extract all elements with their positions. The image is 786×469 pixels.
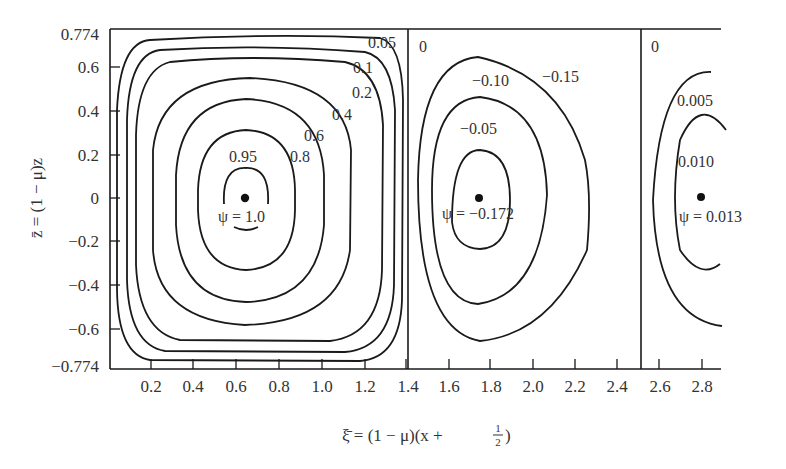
- x-axis-title-frac-den: 2: [495, 436, 501, 448]
- y-tick-label: −0.774: [51, 357, 99, 376]
- x-axis-title-frac-num: 1: [495, 422, 501, 434]
- contour-label: −0.15: [542, 68, 579, 85]
- y-tick-label: 0.4: [78, 102, 100, 121]
- x-tick-labels: 0.2 0.4 0.6 0.8 1.0 1.2 1.4 1.6 1.8 2.0 …: [140, 377, 712, 396]
- y-tick-label: 0: [91, 189, 100, 208]
- y-axis-title: z̄ = (1 − μ)z: [27, 157, 46, 238]
- contour-0.4: [153, 78, 351, 325]
- x-tick-label: 1.2: [354, 377, 375, 396]
- x-tick-label: 2.6: [649, 377, 670, 396]
- x-tick-label: 0.6: [225, 377, 246, 396]
- contour-label: 0.05: [368, 34, 396, 51]
- contour-label: 0.005: [677, 92, 713, 109]
- cell-3-contours: [653, 72, 726, 326]
- contour-label: 0.1: [353, 59, 373, 76]
- contour-label: −0.10: [472, 72, 509, 89]
- center-value-label: ψ = 0.013: [679, 208, 742, 226]
- y-tick-label: −0.2: [68, 232, 99, 251]
- contour--0.15: [418, 57, 589, 341]
- x-tick-label: 1.8: [480, 377, 501, 396]
- x-axis-title: ξ̄ = (1 − μ)(x + 1 2 ): [342, 422, 511, 448]
- y-tick-labels: 0.774 0.6 0.4 0.2 0 −0.2 −0.4 −0.6 −0.77…: [51, 25, 99, 376]
- contour-0.010: [675, 115, 726, 270]
- x-tick-label: 0.2: [140, 377, 161, 396]
- contour-label: 0.4: [332, 106, 352, 123]
- cell-2-labels: 0 −0.15 −0.10 −0.05 ψ = −0.172: [419, 38, 579, 223]
- cell-1-center-point: [241, 194, 249, 202]
- x-tick-label: 2.8: [691, 377, 712, 396]
- contour-label: −0.05: [460, 120, 497, 137]
- x-axis-title-close: ): [505, 426, 511, 445]
- contour-chart: 0.774 0.6 0.4 0.2 0 −0.2 −0.4 −0.6 −0.77…: [0, 0, 786, 469]
- axes-frame: [110, 29, 721, 369]
- cell-2-center-point: [475, 194, 483, 202]
- y-tick-label: 0.2: [78, 146, 99, 165]
- x-tick-label: 2.4: [606, 377, 628, 396]
- y-tick-label: 0.6: [78, 58, 99, 77]
- x-tick-label: 1.4: [397, 377, 419, 396]
- y-ticks: [110, 67, 120, 329]
- contour-0.005: [653, 72, 722, 326]
- x-tick-label: 1.0: [311, 377, 332, 396]
- contour-0.95-lower: [234, 227, 258, 230]
- x-axis-title-main: ξ̄ = (1 − μ)(x +: [342, 426, 443, 445]
- boundary-zero-label: 0: [651, 38, 659, 55]
- cell-2-contours: [418, 57, 589, 341]
- contour-label: 0.2: [352, 84, 372, 101]
- contour-label: 0.6: [304, 127, 324, 144]
- center-value-label: ψ = −0.172: [442, 205, 514, 223]
- center-value-label: ψ = 1.0: [218, 208, 265, 226]
- x-tick-label: 0.4: [182, 377, 204, 396]
- y-tick-label: −0.4: [68, 276, 99, 295]
- x-tick-label: 0.8: [268, 377, 289, 396]
- cell-3-labels: 0 0.005 0.010 ψ = 0.013: [651, 38, 742, 226]
- y-tick-label: −0.6: [68, 320, 99, 339]
- y-tick-label: 0.774: [61, 25, 100, 44]
- boundary-zero-label: 0: [419, 38, 427, 55]
- contour-label: 0.010: [678, 153, 714, 170]
- cell-3-center-point: [697, 193, 705, 201]
- x-tick-label: 2.2: [564, 377, 585, 396]
- x-tick-label: 1.6: [438, 377, 459, 396]
- contour-label: 0.8: [290, 148, 310, 165]
- x-tick-label: 2.0: [522, 377, 543, 396]
- contour-label: 0.95: [229, 148, 257, 165]
